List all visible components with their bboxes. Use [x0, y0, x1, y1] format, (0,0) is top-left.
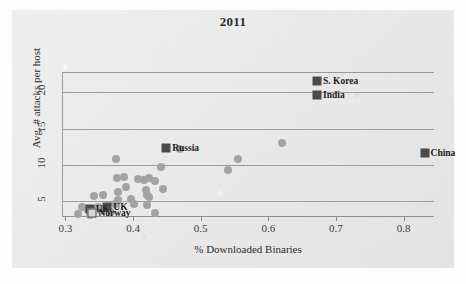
- x-tickmark-0.3: [65, 216, 66, 221]
- scatter-dot: [143, 201, 151, 209]
- x-axis-label: % Downloaded Binaries: [62, 243, 434, 255]
- x-tickmark-0.6: [268, 216, 269, 221]
- scatter-dot: [74, 210, 82, 218]
- scatter-dot: [120, 173, 128, 181]
- scatter-marker-india: [312, 90, 321, 99]
- scatter-dot: [130, 200, 138, 208]
- x-tick-label-0.8: 0.8: [387, 222, 421, 234]
- x-tick-label-0.5: 0.5: [184, 222, 218, 234]
- x-tick-label-0.4: 0.4: [116, 222, 150, 234]
- scatter-marker-china: [420, 148, 429, 157]
- x-tickmark-0.4: [133, 216, 134, 221]
- point-label-china: China: [431, 148, 456, 158]
- chart-title: 2011: [0, 14, 466, 30]
- point-label-norway: Norway: [98, 208, 130, 218]
- scatter-dot: [159, 185, 167, 193]
- point-label-russia: Russia: [172, 143, 199, 153]
- scatter-dot: [224, 166, 232, 174]
- gridline-y-15: [62, 129, 434, 130]
- scatter-dot: [122, 183, 130, 191]
- x-tickmark-0.8: [404, 216, 405, 221]
- gridline-y-20: [62, 92, 434, 93]
- y-tick-label-5: 5: [35, 186, 47, 212]
- scatter-dot: [151, 209, 159, 217]
- point-label-india: India: [323, 90, 345, 100]
- scatter-marker-s-korea: [312, 76, 321, 85]
- x-tickmark-0.7: [336, 216, 337, 221]
- plot-area: S. KoreaIndiaChinaRussiaUKUSNorway: [62, 72, 434, 216]
- scatter-dot: [145, 193, 153, 201]
- x-tick-label-0.6: 0.6: [251, 222, 285, 234]
- scatter-dot: [140, 176, 148, 184]
- y-tick-label-20: 20: [35, 77, 47, 103]
- chart-figure: 2011 Avg. # attacks per host % Downloade…: [0, 0, 466, 284]
- x-tick-label-0.7: 0.7: [319, 222, 353, 234]
- scatter-dot: [99, 191, 107, 199]
- x-tick-label-0.3: 0.3: [48, 222, 82, 234]
- scatter-marker-russia: [162, 144, 171, 153]
- scatter-marker-norway: [88, 209, 97, 218]
- y-tick-label-15: 15: [35, 114, 47, 140]
- x-tickmark-0.5: [201, 216, 202, 221]
- scatter-dot: [90, 192, 98, 200]
- scatter-dot: [151, 177, 159, 185]
- scatter-dot: [114, 188, 122, 196]
- scatter-dot: [278, 139, 286, 147]
- scatter-dot: [234, 155, 242, 163]
- scatter-dot: [112, 155, 120, 163]
- scatter-dot: [157, 163, 165, 171]
- gridline-y-10: [62, 165, 434, 166]
- point-label-s-korea: S. Korea: [323, 76, 358, 86]
- y-tick-label-10: 10: [35, 150, 47, 176]
